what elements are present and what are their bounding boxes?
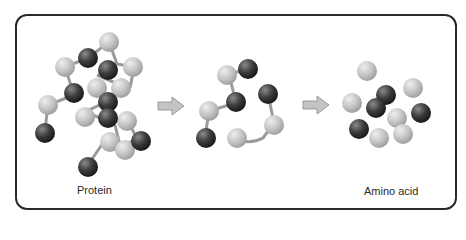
amino-acid-label: Amino acid	[364, 185, 418, 197]
arrow-icon	[303, 96, 329, 114]
amino-acids	[342, 61, 431, 148]
protein-molecule	[35, 32, 151, 177]
unfolding-chain	[196, 59, 284, 148]
protein-label: Protein	[77, 184, 112, 196]
arrow-icon	[158, 97, 184, 115]
